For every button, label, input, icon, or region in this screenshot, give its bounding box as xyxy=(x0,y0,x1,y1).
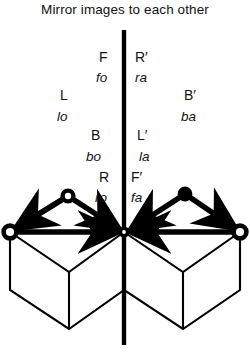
label-L: L xyxy=(60,88,68,102)
label-R-prime: R′ xyxy=(135,50,148,64)
mirror-symmetry-figure xyxy=(0,0,250,356)
label-lo: lo xyxy=(57,110,68,124)
label-la: la xyxy=(139,150,150,164)
label-bo: bo xyxy=(86,150,101,164)
vector-right-outward xyxy=(185,194,235,228)
vector-left-diagonal xyxy=(68,196,119,229)
label-B: B xyxy=(91,128,100,142)
vector-left-outward xyxy=(16,196,68,228)
node-left-outer xyxy=(4,226,17,239)
cube-right xyxy=(124,232,240,329)
label-B-prime: B′ xyxy=(184,88,196,102)
label-ra: ra xyxy=(135,71,147,85)
node-left-upper xyxy=(63,191,74,202)
label-ro: ro xyxy=(95,191,107,205)
label-F-prime: F′ xyxy=(131,170,142,184)
node-right-upper xyxy=(178,187,193,202)
label-F: F xyxy=(99,50,108,64)
label-R: R xyxy=(99,170,109,184)
label-L-prime: L′ xyxy=(137,128,147,142)
node-right-outer xyxy=(234,226,247,239)
label-ba: ba xyxy=(181,110,196,124)
node-origin-hole xyxy=(122,230,126,234)
label-fa: fa xyxy=(131,191,142,205)
label-fo: fo xyxy=(96,71,107,85)
cube-left xyxy=(10,232,124,329)
